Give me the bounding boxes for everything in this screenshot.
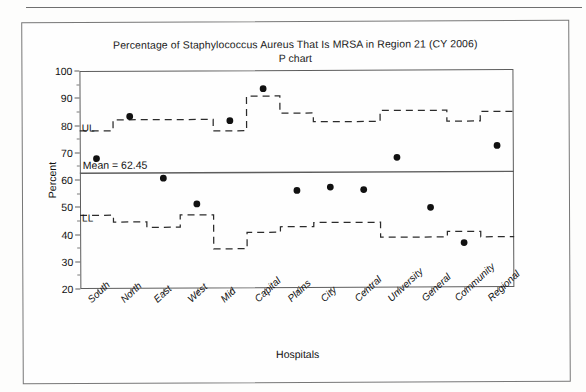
chart-subtitle: P chart: [22, 51, 568, 65]
y-tick-label: 40: [61, 228, 73, 240]
data-point: [226, 117, 233, 124]
y-tick-label: 50: [61, 201, 73, 213]
y-tick-label: 80: [61, 119, 73, 131]
data-points: [79, 69, 514, 289]
lower-limit-label: LL: [82, 213, 93, 224]
data-point: [427, 204, 434, 211]
y-tick-label: 30: [62, 256, 74, 268]
y-tick-label: 60: [61, 174, 73, 186]
data-point: [193, 201, 200, 208]
plot-area: Percent Hospitals 2030405060708090100 So…: [79, 69, 514, 289]
data-point: [327, 184, 334, 191]
data-point: [494, 142, 501, 149]
data-point: [360, 186, 367, 193]
y-tick-label: 20: [62, 283, 74, 295]
data-point: [260, 85, 267, 92]
data-point: [126, 113, 133, 120]
upper-limit-label: UL: [82, 122, 95, 133]
y-tick-label: 90: [61, 92, 73, 104]
chart-title: Percentage of Staphylococcus Aureus That…: [22, 37, 568, 51]
page-top-rule: [26, 7, 582, 8]
data-point: [294, 187, 301, 194]
data-point: [394, 154, 401, 161]
figure-page: Percentage of Staphylococcus Aureus That…: [0, 0, 586, 392]
y-tick-label: 100: [55, 65, 73, 77]
y-tick-label: 70: [61, 147, 73, 159]
y-axis-title: Percent: [46, 162, 58, 198]
mean-line-label: Mean = 62.45: [83, 159, 148, 171]
figure-border-box: Percentage of Staphylococcus Aureus That…: [21, 20, 571, 384]
x-axis-title: Hospitals: [81, 347, 515, 361]
data-point: [461, 239, 468, 246]
data-point: [160, 175, 167, 182]
